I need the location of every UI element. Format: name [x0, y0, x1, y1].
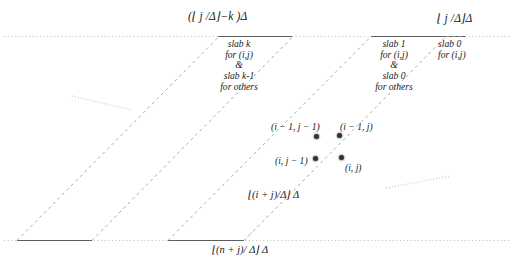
pt-im1-jm1-label: (i − 1, j − 1)	[271, 121, 320, 132]
pt-i-j-label: (i, j)	[345, 162, 362, 173]
pt-im1-jm1-dot	[314, 134, 319, 139]
top-left-bound-label: (⌊ j /Δ⌋−k )Δ	[188, 11, 247, 23]
bottom-inner-tick	[244, 225, 259, 241]
pt-i-j-dot	[339, 155, 344, 160]
slab-0-line-2: for (i,j)	[438, 50, 512, 61]
pt-i-jm1-dot	[313, 156, 318, 161]
pt-im1-j-dot	[337, 133, 342, 138]
slab-1-block: slab 1 for (i,j) & slab 0 for others	[338, 39, 450, 93]
ellipsis-mark-right	[386, 176, 450, 188]
bottom-inner-bound-label: ⌊(i + j)/Δ⌋ Δ	[248, 188, 299, 200]
slab-1-line-5: for others	[338, 82, 450, 93]
slab-k-line-5: for others	[180, 82, 298, 93]
pt-i-jm1-label: (i, j − 1)	[275, 155, 308, 166]
slab-0-block: slab 0 for (i,j)	[438, 39, 512, 60]
pt-im1-j-label: (i − 1, j)	[340, 121, 373, 132]
diagram-canvas: (⌊ j /Δ⌋−k )Δ ⌊ j /Δ⌋Δ slab k for (i,j) …	[0, 0, 514, 272]
slab-k-block: slab k for (i,j) & slab k-1 for others	[180, 39, 298, 93]
bottom-outer-bound-label: ⌊(n + j)/ Δ⌋ Δ	[212, 243, 268, 255]
ellipsis-mark-left	[72, 96, 132, 110]
top-right-bound-label: ⌊ j /Δ⌋Δ	[437, 13, 472, 25]
